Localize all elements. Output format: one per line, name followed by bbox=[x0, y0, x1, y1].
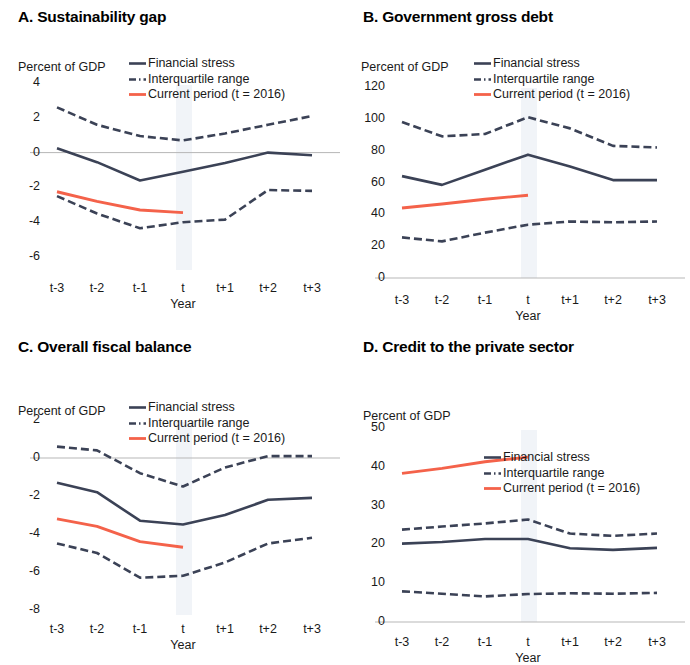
x-tick-label: t+3 bbox=[635, 635, 679, 649]
legend-label-financial-stress: Financial stress bbox=[493, 56, 580, 72]
y-tick-label: 30 bbox=[345, 498, 385, 512]
legend-item-financial-stress: Financial stress bbox=[473, 56, 630, 72]
panel-b-x-axis-title: Year bbox=[498, 309, 558, 323]
legend-item-current-period: Current period (t = 2016) bbox=[128, 431, 285, 447]
legend-item-current-period: Current period (t = 2016) bbox=[128, 87, 285, 103]
y-tick-label: 20 bbox=[345, 238, 385, 252]
x-tick-label: t-1 bbox=[463, 293, 507, 307]
y-tick-label: -8 bbox=[0, 602, 40, 616]
legend-item-interquartile-range: Interquartile range bbox=[483, 466, 640, 482]
solid-line-icon bbox=[128, 58, 147, 69]
x-tick-label: t bbox=[161, 281, 205, 295]
y-tick-label: 0 bbox=[345, 614, 385, 628]
y-tick-label: 40 bbox=[345, 459, 385, 473]
legend-item-current-period: Current period (t = 2016) bbox=[483, 481, 640, 497]
legend-label-financial-stress: Financial stress bbox=[503, 450, 590, 466]
legend-item-financial-stress: Financial stress bbox=[128, 56, 285, 72]
legend-label-financial-stress: Financial stress bbox=[148, 56, 235, 72]
legend-label-interquartile-range: Interquartile range bbox=[148, 416, 249, 432]
x-tick-label: t+2 bbox=[246, 281, 290, 295]
x-tick-label: t+3 bbox=[290, 622, 334, 636]
y-tick-label: -2 bbox=[0, 179, 40, 193]
x-tick-label: t-3 bbox=[380, 293, 424, 307]
legend-label-interquartile-range: Interquartile range bbox=[493, 72, 594, 88]
y-tick-label: 60 bbox=[345, 175, 385, 189]
y-tick-label: 120 bbox=[345, 79, 385, 93]
x-tick-label: t-1 bbox=[118, 622, 162, 636]
y-tick-label: 100 bbox=[345, 111, 385, 125]
y-tick-label: 10 bbox=[345, 575, 385, 589]
dashed-line-icon bbox=[473, 74, 492, 85]
y-tick-label: 20 bbox=[345, 536, 385, 550]
y-tick-label: 80 bbox=[345, 143, 385, 157]
legend-label-current-period: Current period (t = 2016) bbox=[493, 87, 630, 103]
x-tick-label: t-2 bbox=[420, 293, 464, 307]
x-tick-label: t-2 bbox=[420, 635, 464, 649]
y-tick-label: 0 bbox=[0, 145, 40, 159]
legend-label-current-period: Current period (t = 2016) bbox=[503, 481, 640, 497]
panel-a-sustainability-gap: A. Sustainability gap Percent of GDP Fin… bbox=[0, 0, 345, 330]
panel-a-legend: Financial stress Interquartile range Cur… bbox=[128, 56, 285, 103]
legend-item-financial-stress: Financial stress bbox=[483, 450, 640, 466]
panel-d-credit-to-the-private-sector: D. Credit to the private sector Percent … bbox=[345, 330, 690, 659]
x-tick-label: t+2 bbox=[591, 635, 635, 649]
x-tick-label: t-2 bbox=[75, 622, 119, 636]
y-tick-label: 0 bbox=[345, 270, 385, 284]
panel-c-legend: Financial stress Interquartile range Cur… bbox=[128, 400, 285, 447]
x-tick-label: t+3 bbox=[290, 281, 334, 295]
y-tick-label: 40 bbox=[345, 206, 385, 220]
legend-item-financial-stress: Financial stress bbox=[128, 400, 285, 416]
solid-line-icon bbox=[128, 402, 147, 413]
solid-line-accent-icon bbox=[128, 89, 147, 100]
panel-a-x-axis-title: Year bbox=[153, 297, 213, 311]
legend-item-interquartile-range: Interquartile range bbox=[473, 72, 630, 88]
legend-label-current-period: Current period (t = 2016) bbox=[148, 431, 285, 447]
dashed-line-icon bbox=[128, 74, 147, 85]
x-tick-label: t-1 bbox=[463, 635, 507, 649]
panel-c-x-axis-title: Year bbox=[153, 638, 213, 652]
x-tick-label: t-1 bbox=[118, 281, 162, 295]
panel-c-overall-fiscal-balance: C. Overall fiscal balance Percent of GDP… bbox=[0, 330, 345, 659]
x-tick-label: t bbox=[506, 635, 550, 649]
solid-line-icon bbox=[483, 452, 502, 463]
panel-b-legend: Financial stress Interquartile range Cur… bbox=[473, 56, 630, 103]
legend-label-interquartile-range: Interquartile range bbox=[503, 466, 604, 482]
y-tick-label: 2 bbox=[0, 412, 40, 426]
legend-item-interquartile-range: Interquartile range bbox=[128, 72, 285, 88]
panel-d-legend: Financial stress Interquartile range Cur… bbox=[483, 450, 640, 497]
x-tick-label: t+2 bbox=[591, 293, 635, 307]
x-tick-label: t bbox=[161, 622, 205, 636]
x-tick-label: t+1 bbox=[203, 622, 247, 636]
legend-label-financial-stress: Financial stress bbox=[148, 400, 235, 416]
y-tick-label: -6 bbox=[0, 249, 40, 263]
y-tick-label: 4 bbox=[0, 75, 40, 89]
solid-line-icon bbox=[473, 58, 492, 69]
panel-b-government-gross-debt: B. Government gross debt Percent of GDP … bbox=[345, 0, 690, 330]
solid-line-accent-icon bbox=[128, 433, 147, 444]
x-tick-label: t-3 bbox=[35, 622, 79, 636]
y-tick-label: -6 bbox=[0, 564, 40, 578]
x-tick-label: t+2 bbox=[246, 622, 290, 636]
y-tick-label: 0 bbox=[0, 450, 40, 464]
x-tick-label: t-3 bbox=[380, 635, 424, 649]
solid-line-accent-icon bbox=[483, 483, 502, 494]
panel-b-plot bbox=[345, 0, 690, 330]
x-tick-label: t bbox=[506, 293, 550, 307]
x-tick-label: t+1 bbox=[203, 281, 247, 295]
x-tick-label: t+3 bbox=[635, 293, 679, 307]
panel-c-plot bbox=[0, 330, 345, 659]
legend-label-current-period: Current period (t = 2016) bbox=[148, 87, 285, 103]
x-tick-label: t+1 bbox=[548, 635, 592, 649]
legend-item-interquartile-range: Interquartile range bbox=[128, 416, 285, 432]
legend-label-interquartile-range: Interquartile range bbox=[148, 72, 249, 88]
dashed-line-icon bbox=[483, 468, 502, 479]
y-tick-label: -4 bbox=[0, 214, 40, 228]
legend-item-current-period: Current period (t = 2016) bbox=[473, 87, 630, 103]
y-tick-label: -4 bbox=[0, 526, 40, 540]
solid-line-accent-icon bbox=[473, 89, 492, 100]
y-tick-label: 50 bbox=[345, 420, 385, 434]
x-tick-label: t-3 bbox=[35, 281, 79, 295]
panel-d-x-axis-title: Year bbox=[498, 651, 558, 665]
x-tick-label: t-2 bbox=[75, 281, 119, 295]
x-tick-label: t+1 bbox=[548, 293, 592, 307]
